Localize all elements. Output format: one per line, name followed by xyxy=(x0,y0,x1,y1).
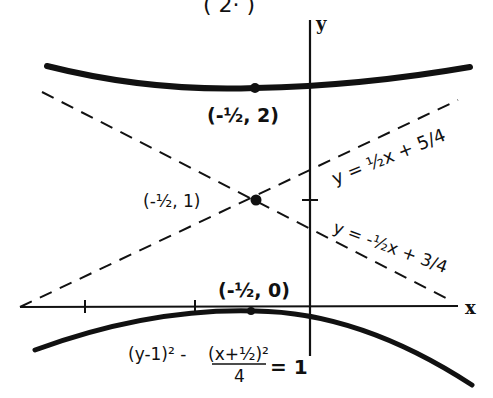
equation-left: (y-1)² - xyxy=(128,344,186,364)
upper-vertex-point xyxy=(250,83,260,93)
title-fragment: ( 2· ) xyxy=(203,0,255,17)
center-point xyxy=(251,195,262,206)
hyperbola-diagram: ( 2· ) y x (-½, 2) (-½, 1) (-½, 0) y = ½… xyxy=(0,0,493,398)
equation-rhs: = 1 xyxy=(270,355,308,379)
lower-vertex-point xyxy=(247,307,255,315)
equation-numerator: (x+½)² xyxy=(208,344,269,364)
center-label: (-½, 1) xyxy=(143,191,201,211)
asymptote-negative-label: y = -½x + 3/4 xyxy=(331,217,451,277)
y-axis-label: y xyxy=(315,13,327,34)
equation-denominator: 4 xyxy=(234,366,245,386)
asymptote-positive-line xyxy=(20,100,458,307)
x-axis-label: x xyxy=(465,297,476,318)
upper-vertex-label: (-½, 2) xyxy=(207,104,279,126)
lower-vertex-label: (-½, 0) xyxy=(218,279,290,301)
